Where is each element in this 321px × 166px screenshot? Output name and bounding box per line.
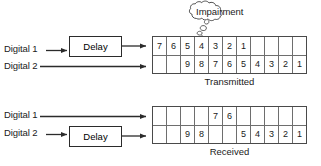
cell: [181, 107, 195, 125]
cell: 2: [279, 126, 293, 144]
cell: 6: [167, 37, 181, 55]
cell: 3: [209, 37, 223, 55]
cell: [167, 126, 181, 144]
cell: 4: [195, 37, 209, 55]
received-grid-row-digital-2: 9 8 5 4 3 2 1: [153, 126, 306, 144]
cell: [265, 37, 279, 55]
received-grid: 7 6 9 8 5 4 3 2 1: [152, 106, 307, 144]
cell: 5: [181, 37, 195, 55]
cell: [153, 126, 167, 144]
cell: [209, 126, 223, 144]
received-delay-box: Delay: [69, 126, 122, 147]
cell: 1: [293, 56, 306, 74]
cell: 1: [237, 37, 251, 55]
cell: [279, 107, 293, 125]
transmitted-delay-label: Delay: [83, 41, 107, 52]
cell: [167, 56, 181, 74]
cell: 9: [181, 126, 195, 144]
cell: 2: [279, 56, 293, 74]
cell: [237, 107, 251, 125]
cell: [251, 37, 265, 55]
cell: 7: [209, 107, 223, 125]
cell: [167, 107, 181, 125]
received-delay-label: Delay: [83, 131, 107, 142]
transmitted-grid-row-digital-1: 7 6 5 4 3 2 1: [153, 37, 306, 56]
transmitted-grid: 7 6 5 4 3 2 1 9 8 7 6 5 4 3 2 1: [152, 36, 307, 74]
cell: 5: [237, 56, 251, 74]
cell: 7: [153, 37, 167, 55]
cell: [223, 126, 237, 144]
transmitted-grid-row-digital-2: 9 8 7 6 5 4 3 2 1: [153, 56, 306, 74]
cell: 8: [195, 126, 209, 144]
cell: 4: [251, 56, 265, 74]
cell: [265, 107, 279, 125]
cell: [153, 56, 167, 74]
transmitted-caption: Transmitted: [152, 77, 307, 87]
transmitted-digital-2-label: Digital 2: [4, 61, 37, 71]
cell: 6: [223, 56, 237, 74]
cell: [293, 107, 306, 125]
cell: 7: [209, 56, 223, 74]
cell: 4: [251, 126, 265, 144]
cell: 8: [195, 56, 209, 74]
transmitted-delay-box: Delay: [69, 36, 122, 57]
impairment-label: Impairment: [196, 7, 244, 17]
cell: 9: [181, 56, 195, 74]
cell: 3: [265, 56, 279, 74]
tdm-impairment-diagram: Digital 1 Digital 2 Delay Impairment 7 6…: [0, 0, 321, 166]
received-grid-row-digital-1: 7 6: [153, 107, 306, 126]
cell: 1: [293, 126, 306, 144]
cell: [195, 107, 209, 125]
transmitted-digital-1-label: Digital 1: [4, 44, 37, 54]
cell: 6: [223, 107, 237, 125]
cell: 5: [237, 126, 251, 144]
cell: [279, 37, 293, 55]
cell: [153, 107, 167, 125]
cell: 2: [223, 37, 237, 55]
received-caption: Received: [152, 147, 307, 157]
cell: [251, 107, 265, 125]
cell: [293, 37, 306, 55]
received-digital-1-label: Digital 1: [4, 110, 37, 120]
received-digital-2-label: Digital 2: [4, 128, 37, 138]
cell: 3: [265, 126, 279, 144]
